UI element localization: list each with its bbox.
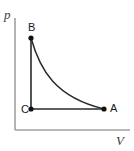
volume-axis-label: V (116, 134, 124, 147)
pressure-axis-label: p (4, 8, 11, 21)
point-marker-a (101, 106, 106, 111)
point-label-c: C (21, 104, 29, 115)
point-label-b: B (28, 22, 35, 33)
point-marker-b (28, 35, 33, 40)
pv-diagram-figure: p V B C A (0, 0, 134, 151)
plot-canvas (0, 0, 134, 151)
point-marker-c (28, 106, 33, 111)
isotherm-curve-b-to-a (31, 38, 104, 109)
point-label-a: A (110, 103, 117, 114)
